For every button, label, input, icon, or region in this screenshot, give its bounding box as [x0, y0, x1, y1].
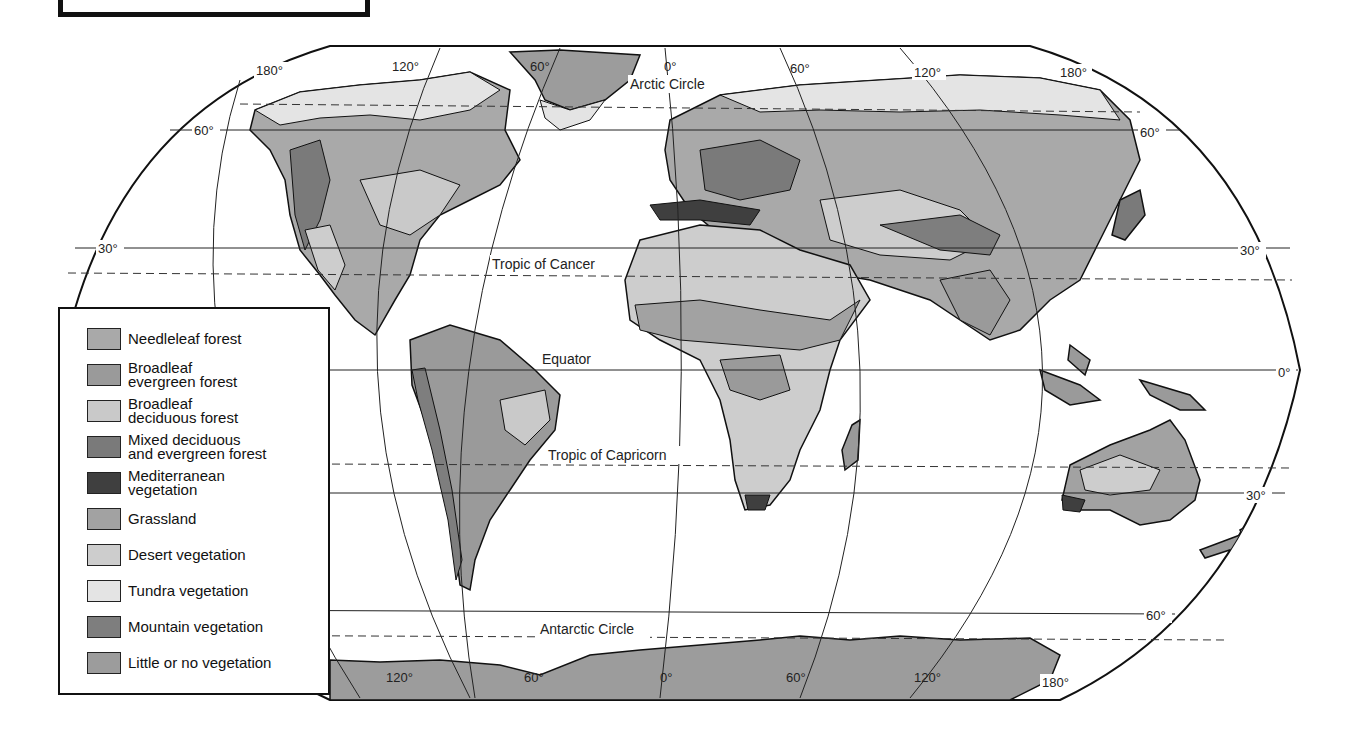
legend-item: Tundra vegetation [87, 573, 328, 609]
lon-label-bottom-0: 0° [660, 670, 672, 685]
legend-label: Broadleafevergreen forest [128, 361, 237, 389]
antarctic-circle-label: Antarctic Circle [540, 621, 634, 637]
legend-label-line: Needleleaf forest [128, 332, 241, 346]
legend-swatch [87, 328, 121, 350]
legend-label-line: vegetation [128, 483, 225, 497]
legend-label: Mountain vegetation [128, 620, 263, 634]
lon-label-bottom-60e: 60° [786, 670, 806, 685]
legend-swatch [87, 580, 121, 602]
tropic-of-cancer-label: Tropic of Cancer [492, 256, 595, 272]
legend-item: Mountain vegetation [87, 609, 328, 645]
lat-label-left-60n: 60° [194, 123, 214, 138]
lat-label-right-0: 0° [1278, 365, 1290, 380]
legend-label-line: Tundra vegetation [128, 584, 248, 598]
legend-item: Broadleafevergreen forest [87, 357, 328, 393]
lon-label-top-180w: 180° [256, 63, 283, 78]
legend-label: Broadleafdeciduous forest [128, 397, 238, 425]
lon-label-top-60w: 60° [530, 59, 550, 74]
legend-label-line: Desert vegetation [128, 548, 246, 562]
legend-label-line: deciduous forest [128, 411, 238, 425]
legend-label: Needleleaf forest [128, 332, 241, 346]
lat-label-right-30s: 30° [1246, 488, 1266, 503]
legend-item: Desert vegetation [87, 537, 328, 573]
legend-label-line: Little or no vegetation [128, 656, 271, 670]
legend-item: Broadleafdeciduous forest [87, 393, 328, 429]
lat-label-right-60s: 60° [1146, 608, 1166, 623]
legend-swatch [87, 364, 121, 386]
legend-label: Little or no vegetation [128, 656, 271, 670]
legend-swatch [87, 616, 121, 638]
lon-label-top-120w: 120° [392, 59, 419, 74]
legend-label: Mediterraneanvegetation [128, 469, 225, 497]
lon-label-bottom-120w: 120° [386, 670, 413, 685]
lon-label-top-0: 0° [664, 59, 676, 74]
legend-label-line: Grassland [128, 512, 196, 526]
legend-label-line: and evergreen forest [128, 447, 266, 461]
lon-label-bottom-60w: 60° [524, 670, 544, 685]
equator-label: Equator [542, 351, 591, 367]
lon-label-bottom-180: 180° [1042, 675, 1069, 690]
lon-label-top-180e: 180° [1060, 65, 1087, 80]
legend: Needleleaf forestBroadleafevergreen fore… [58, 307, 330, 695]
lon-label-bottom-120e: 120° [914, 670, 941, 685]
legend-label: Grassland [128, 512, 196, 526]
lon-label-top-120e: 120° [914, 65, 941, 80]
legend-item: Needleleaf forest [87, 321, 328, 357]
legend-label-line: evergreen forest [128, 375, 237, 389]
lat-label-left-30n: 30° [98, 241, 118, 256]
legend-label: Tundra vegetation [128, 584, 248, 598]
lat-label-right-30n: 30° [1240, 243, 1260, 258]
legend-swatch [87, 544, 121, 566]
legend-item: Grassland [87, 501, 328, 537]
legend-label: Desert vegetation [128, 548, 246, 562]
legend-swatch [87, 472, 121, 494]
legend-swatch [87, 508, 121, 530]
legend-item: Little or no vegetation [87, 645, 328, 681]
legend-item: Mixed deciduousand evergreen forest [87, 429, 328, 465]
legend-swatch [87, 652, 121, 674]
tropic-of-capricorn-label: Tropic of Capricorn [548, 447, 667, 463]
legend-swatch [87, 400, 121, 422]
legend-label: Mixed deciduousand evergreen forest [128, 433, 266, 461]
legend-item: Mediterraneanvegetation [87, 465, 328, 501]
lat-label-right-60n: 60° [1140, 125, 1160, 140]
legend-label-line: Mountain vegetation [128, 620, 263, 634]
legend-swatch [87, 436, 121, 458]
arctic-circle-label: Arctic Circle [630, 76, 705, 92]
lon-label-top-60e: 60° [790, 61, 810, 76]
